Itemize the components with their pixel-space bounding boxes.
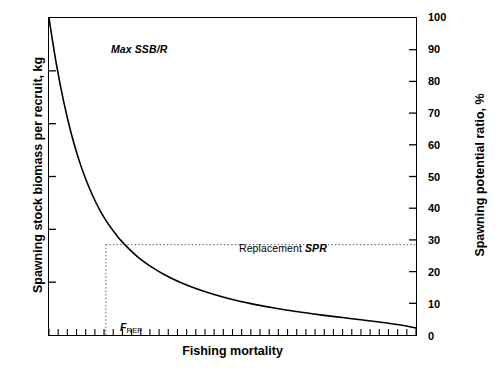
annotation-f-rep: FREP — [120, 321, 143, 335]
y-axis-ticks-right — [409, 50, 416, 304]
y-axis-tick-label-right: 40 — [428, 202, 456, 214]
annotation-spr-text: SPR — [305, 242, 327, 254]
y-axis-title-left: Spawning stock biomass per recruit, kg — [31, 45, 45, 305]
annotation-f-rep-subscript: REP — [127, 326, 143, 335]
y-axis-tick-label-right: 20 — [428, 266, 456, 278]
y-axis-title-right: Spawning potential ratio, % — [473, 40, 487, 310]
y-axis-tick-label-right: 90 — [428, 43, 456, 55]
y-axis-tick-label-right: 80 — [428, 75, 456, 87]
spr-decay-curve — [49, 18, 416, 328]
plot-area: Max SSB/R Replacement SPR FREP — [48, 17, 417, 336]
annotation-replacement-spr: Replacement SPR — [239, 242, 327, 254]
spr-figure: Spawning stock biomass per recruit, kg S… — [0, 0, 500, 378]
y-axis-ticks-left — [49, 71, 56, 282]
x-axis-title: Fishing mortality — [48, 344, 417, 358]
annotation-replacement-text: Replacement — [239, 242, 305, 254]
y-axis-tick-label-right: 60 — [428, 139, 456, 151]
x-axis-ticks — [49, 329, 416, 335]
y-axis-tick-label-right: 0 — [428, 330, 456, 342]
y-axis-tick-label-right: 70 — [428, 107, 456, 119]
plot-svg — [49, 18, 416, 335]
y-axis-tick-label-right: 10 — [428, 298, 456, 310]
y-axis-tick-label-right: 100 — [428, 11, 456, 23]
y-axis-tick-label-right: 50 — [428, 171, 456, 183]
y-axis-tick-label-right: 30 — [428, 234, 456, 246]
annotation-max-ssbr: Max SSB/R — [111, 43, 167, 55]
